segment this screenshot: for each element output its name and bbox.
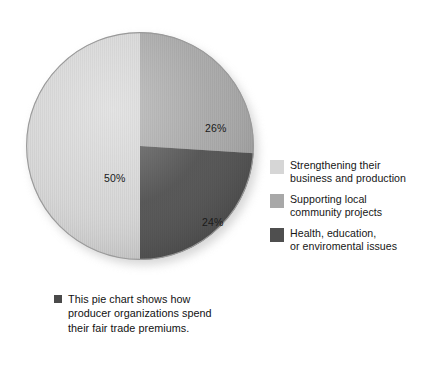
legend-item-label: Supporting local community projects — [290, 193, 382, 218]
caption-line1: This pie chart shows how — [68, 292, 212, 306]
pie-chart: 50% 26% 24% — [26, 32, 254, 260]
pie-label-50-percent: 50% — [104, 172, 125, 184]
pie-chart-figure: 50% 26% 24% Strengthening their business… — [0, 0, 438, 367]
chart-caption: This pie chart shows how producer organi… — [54, 292, 244, 335]
caption-bullet-icon — [54, 295, 62, 303]
legend-item-label-line1: Strengthening their — [290, 159, 406, 172]
legend-item-strengthening-business: Strengthening their business and product… — [270, 159, 438, 184]
caption-line2: producer organizations spend — [68, 306, 212, 320]
caption-line3: their fair trade premiums. — [68, 321, 212, 335]
legend-item-label-line2: or enviromental issues — [290, 240, 397, 253]
legend-item-health-education: Health, education, or enviromental issue… — [270, 227, 438, 252]
legend-swatch-icon — [270, 194, 284, 208]
legend-item-label-line2: community projects — [290, 206, 382, 219]
legend-item-supporting-local: Supporting local community projects — [270, 193, 438, 218]
legend-item-label-line1: Health, education, — [290, 227, 397, 240]
legend-item-label: Health, education, or enviromental issue… — [290, 227, 397, 252]
legend-item-label-line1: Supporting local — [290, 193, 382, 206]
legend-swatch-icon — [270, 160, 284, 174]
legend-item-label-line2: business and production — [290, 172, 406, 185]
chart-legend: Strengthening their business and product… — [270, 159, 438, 262]
legend-swatch-icon — [270, 228, 284, 242]
pie-label-24-percent: 24% — [202, 216, 223, 228]
legend-item-label: Strengthening their business and product… — [290, 159, 406, 184]
pie-label-26-percent: 26% — [205, 122, 226, 134]
caption-text: This pie chart shows how producer organi… — [68, 292, 212, 335]
